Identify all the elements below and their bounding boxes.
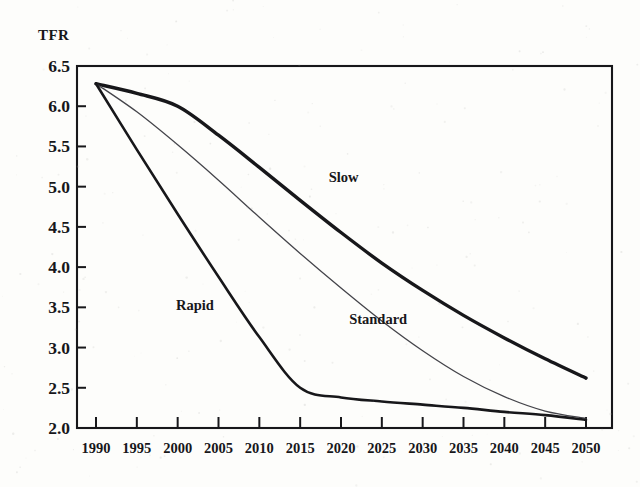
x-tick-label: 2020: [327, 440, 356, 456]
series-label-slow: Slow: [329, 169, 359, 185]
x-tick-label: 2010: [245, 440, 274, 456]
tfr-projection-chart: 2.02.53.03.54.04.55.05.56.06.5 199019952…: [0, 0, 640, 487]
y-tick-label: 2.5: [48, 378, 70, 398]
figure-canvas: 2.02.53.03.54.04.55.05.56.06.5 199019952…: [0, 0, 640, 487]
y-tick-label: 2.0: [48, 418, 70, 438]
series-line-rapid: [96, 84, 586, 420]
y-axis-title: TFR: [38, 27, 69, 43]
y-axis: 2.02.53.03.54.04.55.05.56.06.5: [48, 56, 86, 438]
y-tick-label: 4.5: [48, 217, 70, 237]
x-tick-label: 1995: [122, 440, 151, 456]
x-tick-label: 2000: [163, 440, 192, 456]
y-tick-label: 6.0: [48, 96, 70, 116]
x-tick-label: 2025: [367, 440, 396, 456]
series-label-standard: Standard: [349, 311, 407, 327]
plot-border: [77, 66, 612, 428]
series-line-standard: [96, 84, 586, 419]
series-lines: [96, 84, 586, 420]
x-tick-label: 2045: [531, 440, 560, 456]
series-line-slow: [96, 84, 586, 378]
x-tick-label: 2030: [408, 440, 437, 456]
y-tick-label: 3.5: [48, 297, 70, 317]
x-axis: 1990199520002005201020152020202520302035…: [82, 417, 601, 456]
y-tick-label: 3.0: [48, 338, 70, 358]
x-tick-label: 2040: [490, 440, 519, 456]
y-tick-label: 5.5: [48, 136, 70, 156]
plot-frame: [77, 66, 612, 428]
x-tick-label: 2035: [449, 440, 478, 456]
x-tick-label: 2050: [572, 440, 601, 456]
x-tick-label: 2015: [286, 440, 315, 456]
x-tick-label: 2005: [204, 440, 233, 456]
x-tick-label: 1990: [82, 440, 111, 456]
y-tick-label: 4.0: [48, 257, 70, 277]
y-tick-label: 5.0: [48, 177, 70, 197]
series-label-rapid: Rapid: [176, 297, 214, 313]
y-tick-label: 6.5: [48, 56, 70, 76]
